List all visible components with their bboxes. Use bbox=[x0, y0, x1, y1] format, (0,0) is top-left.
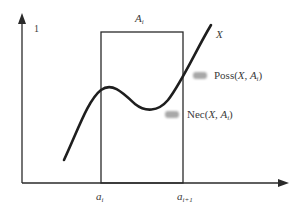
x-tick-a-i: ai bbox=[96, 191, 103, 204]
fuzzy-curve-x bbox=[64, 25, 211, 160]
nec-pointer-icon bbox=[165, 111, 179, 118]
curve-label: X bbox=[216, 29, 223, 40]
diagram-canvas bbox=[0, 0, 305, 208]
x-tick-a-i-plus-1: ai+1 bbox=[177, 191, 193, 204]
y-axis-max-label: 1 bbox=[34, 24, 39, 34]
poss-annotation: Poss(X, Ai) bbox=[214, 70, 262, 83]
poss-pointer-icon bbox=[193, 72, 207, 79]
nec-annotation: Nec(X, Ai) bbox=[187, 109, 233, 122]
x-axis-arrowhead-icon bbox=[278, 179, 289, 187]
y-axis-arrowhead-icon bbox=[18, 13, 26, 24]
interval-label: Ai bbox=[135, 13, 144, 26]
